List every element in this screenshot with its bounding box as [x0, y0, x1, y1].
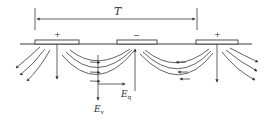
- polarity-minus-middle: −: [133, 31, 140, 40]
- period-dimension: T: [35, 5, 197, 30]
- ev-label: Ev: [93, 104, 105, 115]
- field-lines: [16, 44, 258, 91]
- period-label: T: [114, 5, 123, 18]
- electrode-left: +: [35, 30, 79, 44]
- eq-label: Eq: [120, 89, 132, 101]
- electrode-middle: −: [117, 31, 157, 44]
- polarity-plus-right: +: [214, 30, 221, 39]
- electrode-right: +: [196, 30, 238, 44]
- electrode-field-diagram: T + − +: [0, 0, 270, 122]
- polarity-plus-left: +: [54, 30, 61, 39]
